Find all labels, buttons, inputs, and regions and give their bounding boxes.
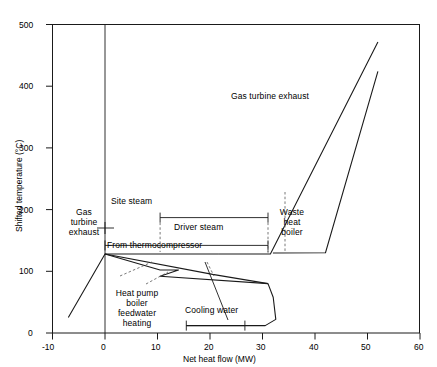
y-axis-title: Shifted temperature (°C) <box>14 140 24 232</box>
annotation-gas-turbine-exhaust-left-line2: turbine <box>62 217 106 227</box>
annotation-waste-heat-boiler-line2: heat <box>272 217 312 227</box>
cold-composite-inner-segment <box>105 254 268 284</box>
annotation-site-steam: Site steam <box>111 196 152 206</box>
x-tick-label-40: 40 <box>309 342 318 352</box>
x-axis-title: Net heat flow (MW) <box>183 354 256 364</box>
x-tick-label-60: 60 <box>414 342 423 352</box>
annotation-heat-pump-line2: boiler <box>106 298 168 308</box>
x-tick-label-20: 20 <box>204 342 213 352</box>
y-tick-label-400: 400 <box>19 81 33 91</box>
annotation-driver-steam: Driver steam <box>174 222 223 232</box>
y-tick-label-100: 100 <box>19 266 33 276</box>
y-tick-label-500: 500 <box>19 20 33 30</box>
x-tick-label-10: 10 <box>151 342 160 352</box>
y-tick-label-0: 0 <box>28 328 33 338</box>
annotation-from-thermocompressor: From thermocompressor <box>107 240 202 250</box>
annotation-waste-heat-boiler-line3: boiler <box>272 227 312 237</box>
x-tick-label-0: 0 <box>101 342 106 352</box>
plot-frame <box>53 25 420 334</box>
annotation-heat-pump-line4: heating <box>106 318 168 328</box>
x-tick-label-neg10: -10 <box>42 342 54 352</box>
cropped-title-text <box>0 0 437 3</box>
chart-root: 0 100 200 300 400 500 -10 0 10 20 30 40 … <box>0 0 437 367</box>
x-axis-ticks <box>53 333 421 340</box>
annotation-heat-pump-line1: Heat pump <box>106 288 168 298</box>
y-axis-ticks <box>46 25 53 334</box>
annotation-heat-pump-line3: feedwater <box>106 308 168 318</box>
cooling-water-dimension-bar <box>186 321 245 331</box>
annotation-cooling-water: Cooling water <box>185 305 238 315</box>
annotation-waste-heat-boiler-line1: Waste <box>272 207 312 217</box>
annotation-gas-turbine-exhaust-right: Gas turbine exhaust <box>231 91 309 101</box>
annotation-gas-turbine-exhaust-left-line3: exhaust <box>62 227 106 237</box>
x-tick-label-50: 50 <box>361 342 370 352</box>
annotation-gas-turbine-exhaust-left-line1: Gas <box>62 207 106 217</box>
x-tick-label-30: 30 <box>256 342 265 352</box>
